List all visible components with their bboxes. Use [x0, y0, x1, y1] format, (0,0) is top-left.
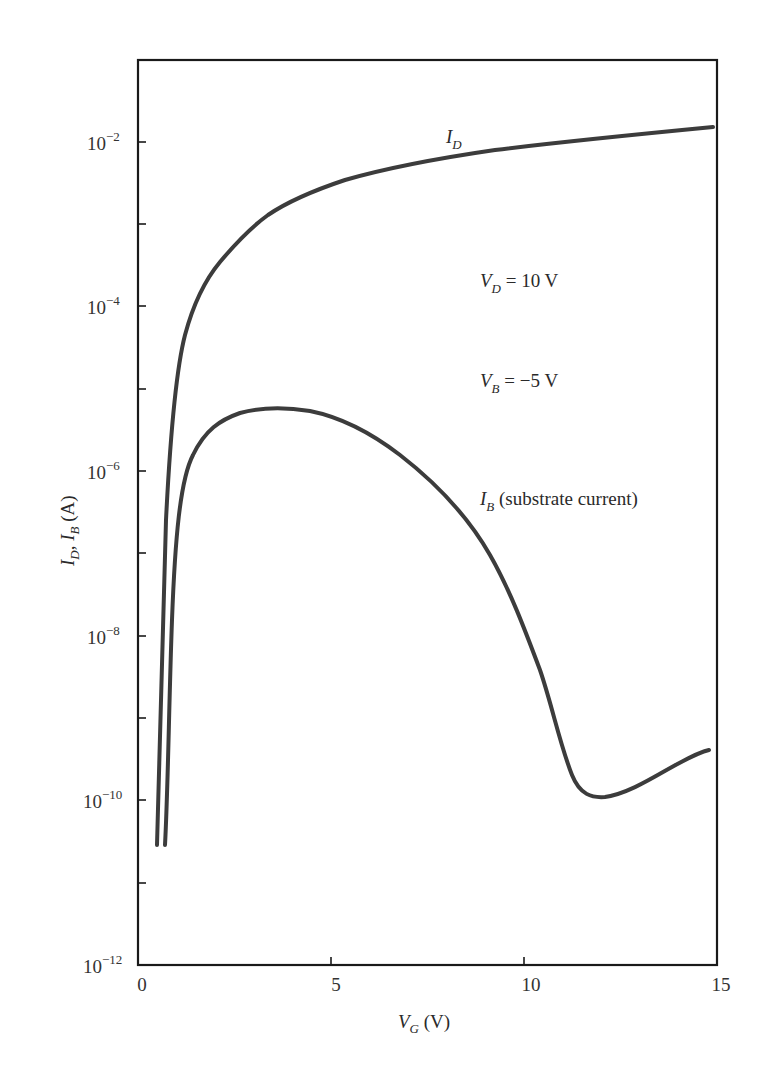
x-tick-labels: 0 5 10 15 [137, 974, 730, 995]
id-curve-label: ID [445, 126, 462, 152]
y-tick-label-1e-6: 10−6 [87, 458, 120, 483]
x-axis-ticks [331, 957, 524, 965]
y-tick-label-1e-10: 10−10 [83, 787, 122, 812]
ib-curve [165, 408, 709, 845]
y-tick-label-1e-2: 10−2 [87, 129, 120, 154]
y-tick-label-1e-12: 10−12 [83, 952, 122, 977]
x-tick-label-10: 10 [522, 974, 541, 995]
vb-condition-label: VB = −5 V [480, 370, 558, 396]
vd-condition-label: VD = 10 V [480, 270, 559, 296]
x-tick-label-15: 15 [712, 974, 731, 995]
ib-curve-label: IB (substrate current) [479, 488, 638, 514]
x-tick-label-5: 5 [331, 974, 341, 995]
plot-frame [138, 60, 717, 965]
y-tick-label-1e-8: 10−8 [87, 623, 120, 648]
y-axis-ticks [138, 142, 146, 883]
y-tick-labels: 10−2 10−4 10−6 10−8 10−10 10−12 [83, 129, 122, 977]
chart-canvas: 10−2 10−4 10−6 10−8 10−10 10−12 0 5 10 1… [0, 0, 767, 1083]
y-axis-label: ID, IB (A) [57, 495, 82, 567]
y-tick-label-1e-4: 10−4 [87, 293, 120, 318]
x-axis-label: VG (V) [398, 1011, 450, 1036]
x-tick-label-0: 0 [137, 974, 147, 995]
